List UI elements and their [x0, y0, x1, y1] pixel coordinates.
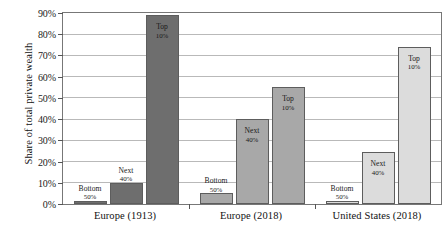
bar-label: Bottom50% — [79, 185, 102, 201]
bar-label-line-2: 40% — [245, 136, 260, 144]
x-axis-group-label: United States (2018) — [314, 210, 440, 221]
bar: Bottom50% — [326, 201, 359, 204]
x-axis-group-label: Europe (2018) — [188, 210, 314, 221]
bar: Bottom50% — [200, 193, 233, 204]
y-axis-tick-label: 70% — [38, 50, 56, 61]
bar-label: Bottom50% — [331, 185, 354, 201]
y-axis-tick-mark — [58, 77, 63, 78]
y-axis-title: Share of total private wealth — [23, 19, 34, 189]
bar-label-line-1: Top — [408, 55, 421, 64]
plot-inner: 0%10%20%30%40%50%60%70%80%90%Bottom50%Ne… — [63, 13, 441, 204]
gridline — [63, 97, 441, 98]
bar: Next40% — [236, 119, 269, 204]
y-axis-tick-label: 30% — [38, 135, 56, 146]
bar-label: Next40% — [245, 127, 260, 143]
bar-label-line-1: Top — [156, 23, 169, 32]
bar-label: Top10% — [156, 23, 169, 39]
bar-label-line-1: Bottom — [79, 185, 102, 194]
x-axis-group-label: Europe (1913) — [62, 210, 188, 221]
bar-label-line-2: 10% — [408, 63, 421, 71]
bar-label-line-2: 10% — [282, 104, 295, 112]
bar: Top10% — [272, 87, 305, 204]
y-axis-tick-label: 40% — [38, 114, 56, 125]
bar-label-line-2: 50% — [205, 186, 228, 194]
bar: Top10% — [146, 15, 179, 204]
y-axis-tick-label: 10% — [38, 177, 56, 188]
y-axis-tick-mark — [58, 55, 63, 56]
y-axis-tick-mark — [58, 98, 63, 99]
bar-label: Top10% — [282, 95, 295, 111]
bar-label: Next40% — [371, 160, 386, 176]
gridline — [63, 34, 441, 35]
y-axis-tick-label: 80% — [38, 29, 56, 40]
bar-label-line-1: Bottom — [331, 185, 354, 194]
y-axis-tick-label: 60% — [38, 71, 56, 82]
y-axis-tick-label: 90% — [38, 8, 56, 19]
bar-label-line-1: Top — [282, 95, 295, 104]
bar-label-line-2: 40% — [119, 175, 134, 183]
bar-label: Top10% — [408, 55, 421, 71]
bar-label-line-2: 50% — [79, 193, 102, 201]
bar-label-line-2: 40% — [371, 169, 386, 177]
chart-figure: Share of total private wealth 0%10%20%30… — [0, 0, 448, 234]
y-axis-tick-label: 0% — [43, 199, 56, 210]
bar-label-line-2: 10% — [156, 32, 169, 40]
bar-label-line-2: 50% — [331, 193, 354, 201]
bar: Next40% — [110, 183, 143, 204]
bar: Top10% — [398, 47, 431, 204]
x-axis-group-separator — [189, 204, 190, 209]
bar-label-line-1: Next — [245, 127, 260, 136]
y-axis-tick-mark — [58, 13, 63, 14]
bar: Next40% — [362, 152, 395, 204]
y-axis-tick-mark — [58, 34, 63, 35]
y-axis-tick-label: 20% — [38, 156, 56, 167]
y-axis-tick-mark — [58, 140, 63, 141]
plot-area: 0%10%20%30%40%50%60%70%80%90%Bottom50%Ne… — [62, 12, 442, 205]
bar-label: Next40% — [119, 167, 134, 183]
y-axis-tick-mark — [58, 119, 63, 120]
x-axis-group-separator — [315, 204, 316, 209]
gridline — [63, 76, 441, 77]
gridline — [63, 55, 441, 56]
bar-label-line-1: Next — [371, 160, 386, 169]
y-axis-tick-mark — [58, 204, 63, 205]
bar: Bottom50% — [74, 201, 107, 204]
bar-label-line-1: Next — [119, 167, 134, 176]
y-axis-tick-label: 50% — [38, 92, 56, 103]
bar-label: Bottom50% — [205, 177, 228, 193]
bar-label-line-1: Bottom — [205, 177, 228, 186]
y-axis-tick-mark — [58, 162, 63, 163]
y-axis-tick-mark — [58, 183, 63, 184]
